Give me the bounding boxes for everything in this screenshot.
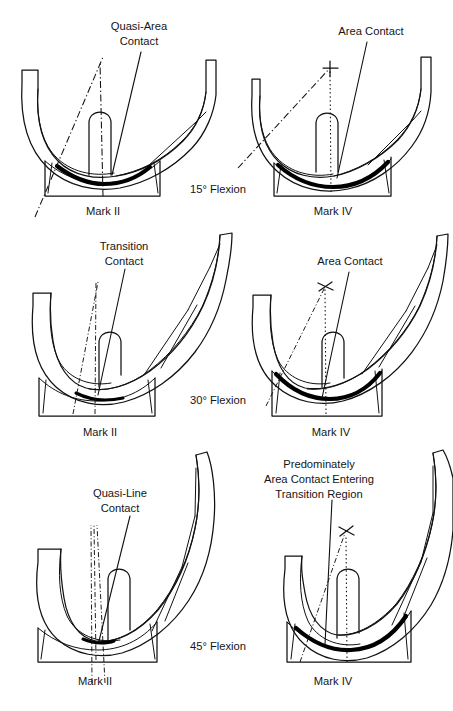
design-label: Mark II [86,205,120,217]
contact-label-line1: Quasi-Area [111,20,168,32]
design-label: Mark IV [312,426,351,438]
design-label: Mark IV [314,205,353,217]
contact-label-line1: Predominately [283,458,355,470]
contact-label-line1: Quasi-Line [93,487,147,499]
contact-label-line1: Area Contact [317,255,383,267]
flexion-label-row2: 30° Flexion [190,394,246,406]
contact-label-line2: Area Contact Entering [264,473,374,485]
figure-background [0,0,453,711]
contact-label-line2: Contact [120,35,159,47]
design-label: Mark II [78,675,112,687]
flexion-label-row3: 45° Flexion [190,640,246,652]
contact-label-line2: Contact [105,255,144,267]
contact-label-line2: Contact [101,502,140,514]
flexion-label-row1: 15° Flexion [190,183,246,195]
implant-flexion-comparison-figure: Quasi-Area Contact Mark II Area Contact … [0,0,453,711]
contact-label-line3: Transition Region [275,488,362,500]
design-label: Mark IV [314,675,353,687]
design-label: Mark II [83,426,117,438]
contact-label-line1: Transition [100,240,149,252]
contact-label-line1: Area Contact [338,25,404,37]
